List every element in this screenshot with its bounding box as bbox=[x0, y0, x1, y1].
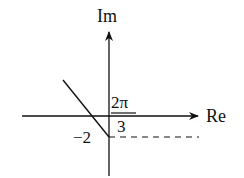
imag-intercept-label: −2 bbox=[73, 128, 91, 147]
imaginary-axis-label: Im bbox=[97, 6, 117, 26]
complex-plane-diagram: Im Re 2π 3 −2 bbox=[0, 0, 244, 178]
angle-numerator: 2π bbox=[111, 93, 129, 112]
real-axis-label: Re bbox=[206, 106, 226, 126]
angle-denominator: 3 bbox=[117, 117, 126, 136]
